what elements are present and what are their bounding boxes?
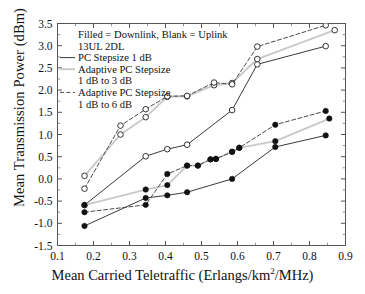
y-tick-label: 0.5 xyxy=(38,151,53,163)
data-point xyxy=(143,195,148,200)
series-line xyxy=(85,135,326,226)
y-tick-label: -0.5 xyxy=(34,195,52,207)
y-tick-label: 3.5 xyxy=(38,18,53,30)
data-point xyxy=(184,142,190,148)
data-point xyxy=(332,27,338,33)
data-point xyxy=(165,193,170,198)
data-point xyxy=(323,133,328,138)
y-tick-label: 1.5 xyxy=(38,106,53,118)
legend-label-0: PC Stepsize 1 dB xyxy=(78,52,152,63)
x-tick-label: 0.9 xyxy=(338,250,353,262)
plot-area: 0.10.20.30.40.50.60.70.80.9-1.5-1.0-0.50… xyxy=(0,0,365,294)
data-point xyxy=(254,44,260,50)
data-point xyxy=(273,144,278,149)
legend-label-1: Adaptive PC Stepsize xyxy=(78,64,171,75)
data-point xyxy=(143,202,148,207)
data-point xyxy=(82,210,87,215)
data-point xyxy=(165,171,170,176)
data-point xyxy=(273,138,278,143)
y-tick-label: 0.0 xyxy=(38,173,53,185)
data-point xyxy=(323,43,329,49)
data-point xyxy=(229,107,235,113)
chart-figure: Mean Transmission Power (dBm) Mean Carri… xyxy=(0,0,365,294)
data-point xyxy=(195,163,200,168)
data-point xyxy=(165,182,170,187)
x-tick-label: 0.4 xyxy=(158,250,173,262)
data-point xyxy=(211,80,217,86)
data-point xyxy=(229,176,234,181)
x-tick-label: 0.5 xyxy=(194,250,209,262)
data-point xyxy=(208,157,213,162)
data-point xyxy=(213,156,218,161)
y-tick-label: 1.0 xyxy=(38,129,53,141)
legend: Filled = Downlink, Blank = Uplink13UL 2D… xyxy=(60,29,228,110)
y-tick-label: 2.0 xyxy=(38,84,53,96)
y-tick-label: 3.0 xyxy=(38,40,53,52)
data-point xyxy=(82,223,87,228)
x-tick-label: 0.6 xyxy=(230,250,245,262)
x-tick-label: 0.3 xyxy=(122,250,137,262)
data-point xyxy=(323,108,328,113)
data-point xyxy=(237,145,242,150)
x-tick-label: 0.1 xyxy=(50,250,65,262)
data-point xyxy=(229,82,235,88)
y-tick-label: 2.5 xyxy=(38,62,53,74)
legend-label-3: Adaptive PC Stepsize xyxy=(78,87,171,98)
data-point xyxy=(118,132,124,138)
legend-annotation-config: 13UL 2DL xyxy=(78,41,124,52)
data-point xyxy=(143,114,149,120)
data-point xyxy=(165,146,171,152)
data-point xyxy=(184,163,189,168)
x-tick-label: 0.7 xyxy=(266,250,281,262)
data-point xyxy=(82,173,88,179)
y-tick-label: -1.0 xyxy=(34,217,52,229)
data-point xyxy=(184,190,189,195)
data-point xyxy=(229,149,234,154)
x-tick-label: 0.8 xyxy=(302,250,317,262)
data-point xyxy=(254,56,260,62)
data-point xyxy=(327,116,332,121)
y-tick-label: -1.5 xyxy=(34,240,52,252)
data-point xyxy=(254,62,260,68)
data-point xyxy=(82,186,88,192)
data-point xyxy=(184,93,190,99)
data-point xyxy=(143,106,149,112)
legend-label-2: 1 dB to 3 dB xyxy=(78,75,132,86)
data-point xyxy=(273,122,278,127)
data-point xyxy=(82,202,87,207)
legend-label-4: 1 dB to 6 dB xyxy=(78,99,132,110)
data-point xyxy=(118,123,124,129)
series-3 xyxy=(82,133,329,229)
x-tick-label: 0.2 xyxy=(86,250,101,262)
data-point xyxy=(143,153,149,159)
legend-annotation-filled-blank: Filled = Downlink, Blank = Uplink xyxy=(78,29,228,40)
data-point xyxy=(143,187,148,192)
